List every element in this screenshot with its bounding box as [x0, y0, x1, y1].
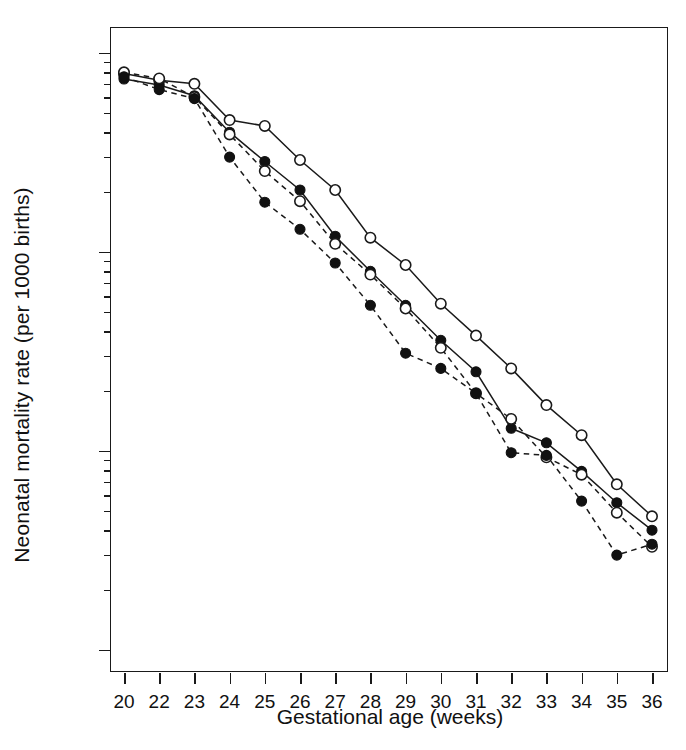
- open-circle-marker: [189, 79, 199, 89]
- y-tick-minor: [104, 261, 111, 262]
- open-circle-marker: [224, 129, 234, 139]
- series-overlay: [111, 28, 669, 673]
- series-dashed-open-circle: [119, 67, 657, 552]
- x-tick: [124, 673, 126, 684]
- y-tick-minor: [104, 271, 111, 272]
- y-tick-minor: [104, 495, 111, 496]
- series-line: [124, 79, 652, 530]
- x-tick-label: 30: [421, 692, 461, 711]
- x-tick: [582, 673, 584, 684]
- x-tick: [194, 673, 196, 684]
- filled-circle-marker: [401, 348, 411, 358]
- open-circle-marker: [295, 196, 305, 206]
- open-circle-marker: [400, 260, 410, 270]
- y-tick-minor: [104, 132, 111, 133]
- y-tick-minor: [104, 113, 111, 114]
- open-circle-marker: [436, 299, 446, 309]
- y-tick-minor: [104, 157, 111, 158]
- filled-circle-marker: [506, 448, 516, 458]
- open-circle-marker: [260, 166, 270, 176]
- y-tick-minor: [104, 62, 111, 63]
- filled-circle-marker: [295, 185, 305, 195]
- y-tick-minor: [104, 356, 111, 357]
- y-tick-minor: [104, 482, 111, 483]
- series-line: [124, 77, 652, 555]
- open-circle-marker: [436, 343, 446, 353]
- open-circle-marker: [471, 330, 481, 340]
- y-tick-minor: [104, 84, 111, 85]
- y-tick-minor: [104, 192, 111, 193]
- filled-circle-marker: [436, 363, 446, 373]
- y-tick-major: [99, 252, 111, 253]
- y-tick-minor: [104, 296, 111, 297]
- filled-circle-marker: [154, 85, 164, 95]
- open-circle-marker: [365, 233, 375, 243]
- x-tick: [230, 673, 232, 684]
- x-tick: [617, 673, 619, 684]
- filled-circle-marker: [577, 496, 587, 506]
- open-circle-marker: [612, 508, 622, 518]
- plot-area: 1000100101 20222324252627282930313233343…: [110, 27, 668, 672]
- open-circle-marker: [295, 155, 305, 165]
- filled-circle-marker: [295, 224, 305, 234]
- filled-circle-marker: [612, 550, 622, 560]
- y-tick-minor: [104, 460, 111, 461]
- filled-circle-marker: [541, 438, 551, 448]
- open-circle-marker: [260, 121, 270, 131]
- x-tick-label: 32: [491, 692, 531, 711]
- y-tick-minor: [104, 312, 111, 313]
- filled-circle-marker: [225, 152, 235, 162]
- x-tick-label: 31: [456, 692, 496, 711]
- x-tick: [370, 673, 372, 684]
- open-circle-marker: [647, 511, 657, 521]
- filled-circle-marker: [330, 258, 340, 268]
- y-tick-minor: [104, 72, 111, 73]
- open-circle-marker: [612, 479, 622, 489]
- x-tick-label: 26: [280, 692, 320, 711]
- x-tick: [476, 673, 478, 684]
- open-circle-marker: [224, 115, 234, 125]
- filled-circle-marker: [365, 300, 375, 310]
- x-tick-label: 27: [315, 692, 355, 711]
- chart-figure: Neonatal mortality rate (per 1000 births…: [0, 0, 686, 750]
- x-tick-label: 23: [174, 692, 214, 711]
- y-tick-minor: [104, 391, 111, 392]
- x-tick-label: 24: [210, 692, 250, 711]
- y-tick-major: [99, 451, 111, 452]
- open-circle-marker: [154, 73, 164, 83]
- series-solid-filled-circle: [119, 74, 657, 535]
- series-solid-open-circle: [119, 68, 657, 521]
- x-tick-label: 25: [245, 692, 285, 711]
- open-circle-marker: [330, 239, 340, 249]
- series-dashed-filled-circle: [119, 72, 657, 560]
- open-circle-marker: [576, 470, 586, 480]
- series-line: [124, 72, 652, 547]
- x-tick-label: 33: [526, 692, 566, 711]
- y-tick-minor: [104, 555, 111, 556]
- filled-circle-marker: [471, 367, 481, 377]
- y-tick-minor: [104, 511, 111, 512]
- x-tick: [406, 673, 408, 684]
- x-tick: [652, 673, 654, 684]
- y-tick-minor: [104, 530, 111, 531]
- y-tick-minor: [104, 470, 111, 471]
- x-tick-label: 22: [139, 692, 179, 711]
- open-circle-marker: [576, 430, 586, 440]
- x-tick: [300, 673, 302, 684]
- filled-circle-marker: [647, 525, 657, 535]
- x-tick-label: 34: [562, 692, 602, 711]
- x-tick: [511, 673, 513, 684]
- x-tick: [335, 673, 337, 684]
- y-axis-title: Neonatal mortality rate (per 1000 births…: [0, 0, 44, 750]
- filled-circle-marker: [260, 197, 270, 207]
- y-tick-minor: [104, 283, 111, 284]
- x-tick-label: 29: [386, 692, 426, 711]
- y-tick-major: [99, 53, 111, 54]
- open-circle-marker: [506, 363, 516, 373]
- open-circle-marker: [365, 269, 375, 279]
- filled-circle-marker: [471, 388, 481, 398]
- open-circle-marker: [400, 303, 410, 313]
- filled-circle-marker: [647, 539, 657, 549]
- x-tick: [265, 673, 267, 684]
- filled-circle-marker: [612, 498, 622, 508]
